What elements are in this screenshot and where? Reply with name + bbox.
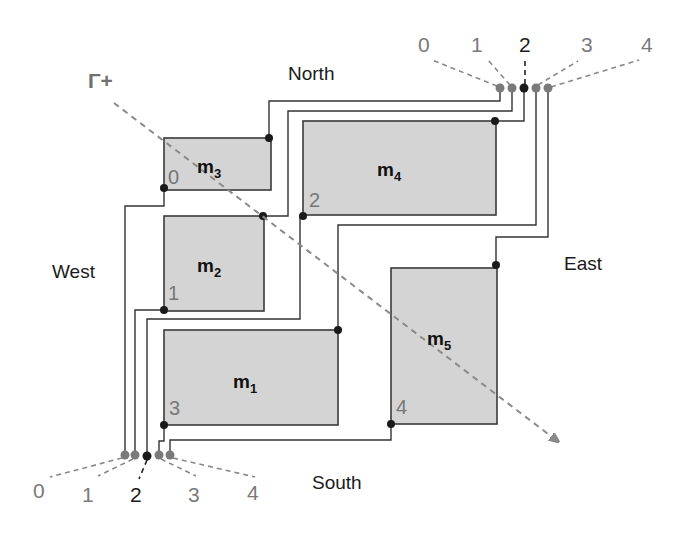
leader-south-4 (173, 458, 255, 477)
leader-south-0 (50, 458, 122, 477)
wire-north-4 (496, 88, 548, 265)
pin-m3-south (160, 184, 168, 192)
leader-north-1 (488, 60, 510, 85)
gamma-plus-label: Γ+ (88, 69, 113, 92)
north-terminal-label-4: 4 (641, 33, 653, 56)
label-south: South (312, 472, 362, 493)
south-terminal-label-0: 0 (33, 479, 45, 502)
leader-south-2 (139, 460, 147, 479)
pin-label-m1: 3 (169, 397, 180, 419)
south-terminal-label-2: 2 (130, 483, 142, 506)
module-m1 (164, 330, 338, 425)
pin-m1-north (334, 326, 342, 334)
south-terminal-label-3: 3 (188, 483, 200, 506)
leader-south-1 (98, 459, 133, 476)
terminal-south-1 (131, 451, 140, 460)
module-m3 (164, 138, 271, 190)
pin-label-m2: 1 (168, 282, 179, 304)
label-west: West (52, 261, 96, 282)
pin-label-m5: 4 (396, 396, 407, 418)
terminal-south-0 (121, 451, 130, 460)
south-terminal-label-1: 1 (82, 483, 94, 506)
wire-south-4 (170, 424, 391, 455)
terminal-south-3 (155, 451, 164, 460)
pin-m5-south (387, 420, 395, 428)
module-placement-diagram: North South East West Γ+ m3 m2 m4 m1 m5 … (0, 0, 686, 537)
pin-m3-north (265, 134, 273, 142)
south-terminal-label-4: 4 (247, 481, 259, 504)
wire-south-0 (125, 188, 164, 455)
north-terminal-label-2: 2 (519, 33, 531, 56)
pin-m2-south (160, 306, 168, 314)
north-terminal-label-0: 0 (418, 33, 430, 56)
wire-south-3 (159, 425, 164, 455)
leader-north-3 (538, 61, 578, 85)
label-north: North (288, 63, 334, 84)
north-terminal-label-1: 1 (471, 33, 483, 56)
pin-m4-north (491, 117, 499, 125)
north-terminal-label-3: 3 (581, 33, 593, 56)
pin-m5-north (492, 261, 500, 269)
terminal-north-2 (520, 84, 529, 93)
label-east: East (564, 253, 603, 274)
terminal-south-4 (166, 451, 175, 460)
terminal-south-2 (143, 452, 152, 461)
terminal-north-3 (532, 84, 541, 93)
pin-label-m3: 0 (168, 166, 179, 188)
pin-m1-south (160, 421, 168, 429)
leader-north-0 (432, 60, 497, 86)
terminal-north-1 (508, 84, 517, 93)
module-m4 (303, 121, 496, 215)
pin-label-m4: 2 (309, 189, 320, 211)
pin-m4-south (299, 212, 307, 220)
terminal-north-0 (496, 84, 505, 93)
terminal-north-4 (544, 84, 553, 93)
wire-south-1 (135, 310, 164, 455)
leader-north-4 (551, 60, 639, 87)
